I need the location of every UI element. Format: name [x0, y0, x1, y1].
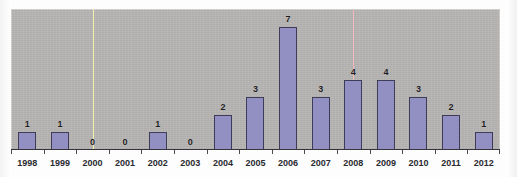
x-label-2002: 2002: [141, 157, 174, 169]
axis-tick-2004: [207, 150, 208, 154]
bar-1999: [51, 132, 69, 150]
bar-value-label-2004: 2: [220, 103, 225, 112]
bar-value-label-1999: 1: [57, 120, 62, 129]
bar-value-label-2002: 1: [155, 120, 160, 129]
bar-group-2003: 0: [174, 9, 207, 150]
bar-value-label-2006: 7: [286, 15, 291, 24]
x-label-2010: 2010: [402, 157, 435, 169]
bar-group-2008: 4: [337, 9, 370, 150]
axis-tick-2008: [337, 150, 338, 154]
axis-tick-1998: [11, 150, 12, 154]
bar-group-2000: 0: [76, 9, 109, 150]
x-label-2006: 2006: [272, 157, 305, 169]
axis-tick-end: [499, 150, 500, 154]
bar-value-label-2001: 0: [123, 138, 128, 147]
x-label-1999: 1999: [44, 157, 77, 169]
bar-2011: [442, 115, 460, 150]
axis-tick-2006: [272, 150, 273, 154]
axis-tick-2001: [109, 150, 110, 154]
bar-group-1998: 1: [11, 9, 44, 150]
x-label-2007: 2007: [304, 157, 337, 169]
bar-2012: [475, 132, 493, 150]
bar-group-2002: 1: [141, 9, 174, 150]
page-left-edge: [0, 0, 11, 177]
bar-group-2001: 0: [109, 9, 142, 150]
axis-tick-2011: [435, 150, 436, 154]
bar-chart-figure: 110010237344321 199819992000200120022003…: [0, 0, 517, 177]
bar-2009: [377, 80, 395, 150]
bar-value-label-2012: 1: [481, 120, 486, 129]
bar-2002: [149, 132, 167, 150]
bar-2006: [279, 27, 297, 150]
axis-tick-2005: [239, 150, 240, 154]
x-label-2009: 2009: [370, 157, 403, 169]
bar-2010: [409, 97, 427, 150]
bar-group-2005: 3: [239, 9, 272, 150]
x-label-2003: 2003: [174, 157, 207, 169]
bar-group-2010: 3: [402, 9, 435, 150]
axis-tick-1999: [44, 150, 45, 154]
axis-tick-2007: [304, 150, 305, 154]
bar-group-2012: 1: [467, 9, 500, 150]
axis-tick-2012: [467, 150, 468, 154]
bar-group-2009: 4: [370, 9, 403, 150]
bar-2005: [246, 97, 264, 150]
axis-tick-2010: [402, 150, 403, 154]
page-right-edge: [506, 0, 517, 177]
bar-2008: [344, 80, 362, 150]
bar-value-label-2009: 4: [383, 68, 388, 77]
bar-group-2011: 2: [435, 9, 468, 150]
x-axis-ticks: [11, 150, 500, 154]
bar-group-2007: 3: [304, 9, 337, 150]
x-label-2000: 2000: [76, 157, 109, 169]
x-label-2011: 2011: [435, 157, 468, 169]
bar-2004: [214, 115, 232, 150]
bar-value-label-2007: 3: [318, 85, 323, 94]
bar-1998: [18, 132, 36, 150]
x-label-2008: 2008: [337, 157, 370, 169]
x-label-2004: 2004: [207, 157, 240, 169]
bar-group-2006: 7: [272, 9, 305, 150]
bars-layer: 110010237344321: [11, 9, 500, 150]
x-label-2001: 2001: [109, 157, 142, 169]
bar-group-1999: 1: [44, 9, 77, 150]
axis-tick-2009: [370, 150, 371, 154]
bar-2007: [312, 97, 330, 150]
x-label-2005: 2005: [239, 157, 272, 169]
bar-value-label-2011: 2: [449, 103, 454, 112]
axis-tick-2002: [141, 150, 142, 154]
bar-value-label-2005: 3: [253, 85, 258, 94]
x-label-1998: 1998: [11, 157, 44, 169]
bar-group-2004: 2: [207, 9, 240, 150]
bar-value-label-2010: 3: [416, 85, 421, 94]
bar-value-label-2003: 0: [188, 138, 193, 147]
bar-value-label-1998: 1: [25, 120, 30, 129]
x-axis-labels: 1998199920002001200220032004200520062007…: [11, 157, 500, 171]
bar-value-label-2008: 4: [351, 68, 356, 77]
axis-tick-2003: [174, 150, 175, 154]
x-label-2012: 2012: [467, 157, 500, 169]
bar-value-label-2000: 0: [90, 138, 95, 147]
axis-tick-2000: [76, 150, 77, 154]
